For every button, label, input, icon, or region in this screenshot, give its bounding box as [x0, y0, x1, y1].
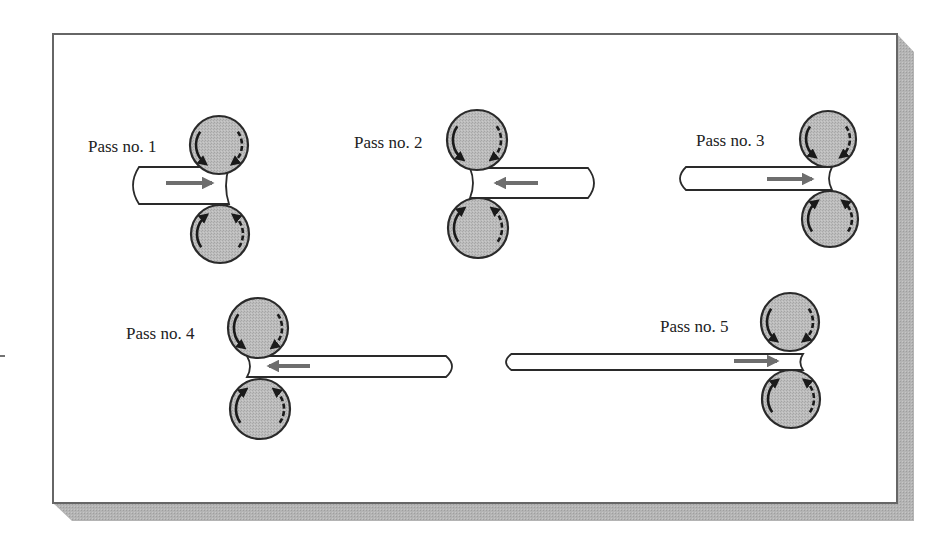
roll-body: [191, 205, 249, 263]
bottom-roll: [762, 370, 820, 428]
diagram-frame: [53, 34, 897, 503]
rolling-passes-diagram: Pass no. 1Pass no. 2Pass no. 3Pass no. 4…: [0, 0, 946, 547]
pass-label: Pass no. 5: [660, 317, 728, 336]
roll-body: [447, 110, 507, 170]
roll-body: [802, 191, 858, 247]
pass-label: Pass no. 2: [354, 133, 422, 152]
pass-label: Pass no. 4: [126, 324, 195, 343]
roll-body: [762, 370, 820, 428]
roll-body: [800, 111, 856, 167]
roll-body: [190, 116, 248, 174]
top-roll: [228, 298, 288, 358]
pass-label: Pass no. 3: [696, 131, 764, 150]
top-roll: [761, 293, 819, 351]
bottom-roll: [448, 198, 508, 258]
roll-body: [761, 293, 819, 351]
pass-label: Pass no. 1: [88, 137, 156, 156]
bottom-roll: [802, 191, 858, 247]
top-roll: [800, 111, 856, 167]
roll-body: [230, 379, 290, 439]
top-roll: [447, 110, 507, 170]
roll-body: [448, 198, 508, 258]
bottom-roll: [230, 379, 290, 439]
bottom-roll: [191, 205, 249, 263]
roll-body: [228, 298, 288, 358]
top-roll: [190, 116, 248, 174]
